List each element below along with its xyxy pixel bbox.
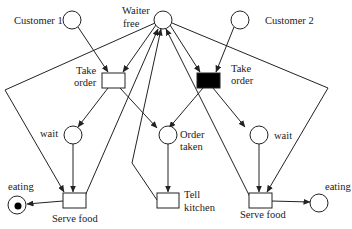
label-eating1: eating xyxy=(8,181,34,192)
label-take-order2-1: Take xyxy=(231,63,252,74)
place-wait2[interactable] xyxy=(250,126,268,144)
arc-waiter-servefood1 xyxy=(5,23,155,192)
transition-tell-kitchen[interactable] xyxy=(157,193,179,208)
arc-takeorder2-ordertaken xyxy=(169,88,203,128)
label-order-taken-2: taken xyxy=(180,141,203,152)
place-customer2[interactable] xyxy=(231,11,249,29)
label-customer2: Customer 2 xyxy=(265,15,314,26)
arc-waiter-servefood2 xyxy=(172,23,328,192)
transition-serve-food2[interactable] xyxy=(249,193,272,208)
arc-takeorder1-ordertaken xyxy=(120,88,157,128)
label-take-order1-2: order xyxy=(74,77,97,88)
transition-serve-food1[interactable] xyxy=(63,193,86,208)
label-take-order2-2: order xyxy=(231,75,254,86)
arc-servefood1-eating1 xyxy=(27,201,63,204)
transition-take-order2[interactable] xyxy=(197,73,220,88)
label-serve-food2: Serve food xyxy=(240,209,287,220)
arcs xyxy=(5,23,328,204)
place-customer1[interactable] xyxy=(63,11,81,29)
place-waiter-free[interactable] xyxy=(154,11,172,29)
label-waiter-free-2: free xyxy=(123,18,140,29)
place-eating2[interactable] xyxy=(310,194,328,212)
label-order-taken-1: Order xyxy=(180,129,205,140)
label-tell-kitchen-2: kitchen xyxy=(184,202,216,213)
labels: Customer 1 Waiter free Customer 2 Take o… xyxy=(8,5,351,224)
arc-waiter-takeorder2 xyxy=(170,25,200,72)
arc-takeorder2-wait2 xyxy=(213,88,245,127)
label-tell-kitchen-1: Tell xyxy=(184,189,200,200)
transition-take-order1[interactable] xyxy=(102,73,125,88)
place-order-taken[interactable] xyxy=(159,126,177,144)
petri-net-diagram: Customer 1 Waiter free Customer 2 Take o… xyxy=(0,0,352,229)
label-eating2: eating xyxy=(325,181,351,192)
arc-servefood2-eating2 xyxy=(271,201,310,202)
label-take-order1-1: Take xyxy=(76,65,97,76)
arc-takeorder1-wait1 xyxy=(78,88,108,127)
label-wait1: wait xyxy=(40,128,58,139)
label-waiter-free-1: Waiter xyxy=(122,5,150,16)
arc-servefood2-waiter xyxy=(166,29,250,197)
label-serve-food1: Serve food xyxy=(52,213,99,224)
place-wait1[interactable] xyxy=(64,126,82,144)
label-wait2: wait xyxy=(274,130,292,141)
arc-waiter-takeorder1 xyxy=(123,25,156,72)
token-icon xyxy=(15,203,22,210)
label-customer1: Customer 1 xyxy=(14,15,63,26)
